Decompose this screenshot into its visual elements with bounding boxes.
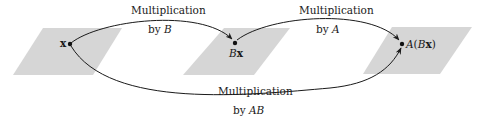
label-abx: A(Bx): [406, 39, 436, 50]
point-bx: [233, 41, 237, 45]
by-ab-prefix: by: [233, 104, 249, 116]
codomain-plane-abx: [363, 27, 472, 74]
by-a-matrix: A: [332, 23, 340, 35]
label-x: x: [60, 38, 66, 49]
by-a-line2: by A: [316, 24, 340, 35]
label-abx-close: ): [432, 38, 436, 50]
point-x: [68, 42, 72, 46]
by-b-line1: Multiplication: [131, 5, 206, 16]
by-b-matrix: B: [164, 23, 172, 35]
label-bx: Bx: [229, 48, 243, 59]
by-a-prefix: by: [316, 23, 332, 35]
by-ab-line2: by AB: [233, 105, 264, 116]
by-a-line1: Multiplication: [299, 5, 374, 16]
by-ab-matrix: AB: [249, 104, 264, 116]
by-b-line2: by B: [148, 24, 172, 35]
label-bx-vector: x: [237, 47, 243, 59]
by-b-prefix: by: [148, 23, 164, 35]
label-bx-matrix: B: [229, 47, 237, 59]
label-abx-a: A: [406, 38, 414, 50]
point-abx: [400, 42, 404, 46]
domain-plane-x: [13, 28, 122, 75]
by-ab-line1: Multiplication: [218, 86, 293, 97]
